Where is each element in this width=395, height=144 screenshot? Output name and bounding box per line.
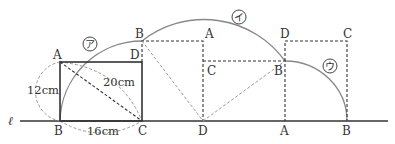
label-c1: C bbox=[138, 124, 147, 138]
line-l-label: ℓ bbox=[8, 114, 13, 128]
length-ac: 20cm bbox=[103, 75, 135, 89]
arc-label-a: ア bbox=[83, 37, 97, 51]
label-b2: B bbox=[135, 27, 144, 41]
arc-label-i: イ bbox=[232, 10, 246, 24]
label-d2: D bbox=[198, 124, 208, 138]
label-a2: A bbox=[204, 27, 214, 41]
label-b4: B bbox=[342, 124, 351, 138]
label-d4: D bbox=[280, 27, 290, 41]
arc-label-u: ウ bbox=[323, 59, 337, 73]
diagonal-ac bbox=[60, 62, 142, 121]
svg-text:ア: ア bbox=[85, 39, 95, 50]
length-bc: 16cm bbox=[87, 124, 119, 138]
label-a1: A bbox=[52, 48, 62, 62]
label-c3: C bbox=[207, 64, 216, 78]
label-a3: A bbox=[279, 124, 289, 138]
label-b3: B bbox=[274, 64, 283, 78]
label-c4: C bbox=[343, 27, 352, 41]
length-ab: 12cm bbox=[27, 83, 59, 97]
diagonal-2 bbox=[142, 41, 203, 121]
rectangle-position-4 bbox=[285, 41, 347, 121]
label-d1: D bbox=[130, 48, 140, 62]
arc-u bbox=[285, 61, 347, 121]
svg-text:イ: イ bbox=[234, 12, 244, 23]
svg-text:ウ: ウ bbox=[325, 61, 335, 72]
label-b1: B bbox=[54, 124, 63, 138]
rolling-rectangle-diagram: ℓ A B C D 12cm 16cm 20cm B A D C B A D C… bbox=[0, 0, 395, 144]
